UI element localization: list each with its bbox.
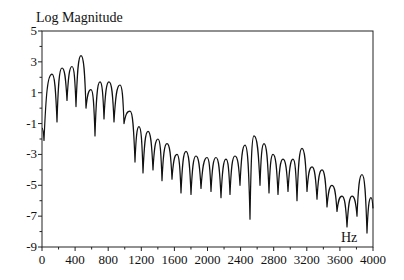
log-magnitude-chart: 0400800120016002000240028003200360040005… — [0, 0, 404, 280]
y-tick-label: -9 — [26, 239, 37, 254]
x-tick-label: 3200 — [294, 252, 320, 267]
x-tick-label: 3600 — [327, 252, 353, 267]
x-axis-label: Hz — [341, 230, 357, 245]
y-tick-label: -3 — [26, 146, 37, 161]
x-tick-label: 2400 — [228, 252, 254, 267]
x-tick-label: 0 — [39, 252, 46, 267]
axes — [42, 31, 373, 247]
spectrum-line — [42, 56, 373, 233]
x-tick-label: 800 — [98, 252, 118, 267]
y-tick-label: 3 — [31, 54, 38, 69]
x-tick-label: 2800 — [261, 252, 287, 267]
plot-frame — [42, 31, 373, 247]
x-tick-label: 2000 — [195, 252, 221, 267]
y-tick-label: -7 — [26, 208, 37, 223]
x-tick-label: 1600 — [161, 252, 187, 267]
x-tick-label: 4000 — [360, 252, 386, 267]
y-tick-label: -5 — [26, 177, 37, 192]
y-tick-label: 1 — [31, 85, 38, 100]
x-tick-label: 400 — [65, 252, 85, 267]
axis-ticks — [38, 31, 373, 251]
tick-labels: 0400800120016002000240028003200360040005… — [26, 23, 386, 267]
x-tick-label: 1200 — [128, 252, 154, 267]
chart-title: Log Magnitude — [36, 10, 123, 25]
y-tick-label: 5 — [31, 23, 38, 38]
y-tick-label: -1 — [26, 116, 37, 131]
